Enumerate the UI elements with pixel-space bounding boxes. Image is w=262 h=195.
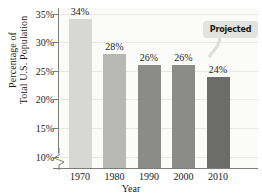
- bar-2010: [207, 77, 230, 168]
- callout-tail-icon: [206, 36, 222, 58]
- bar-value-label-1980: 28%: [95, 41, 135, 52]
- y-axis-tick-mark: [53, 14, 59, 15]
- bar-value-label-2000: 26%: [164, 52, 204, 63]
- y-axis-tick-mark: [53, 71, 59, 72]
- bar-2000: [172, 65, 195, 168]
- y-axis-tick-label: 35%: [36, 8, 54, 19]
- y-axis-tick-label: 20%: [36, 94, 54, 105]
- axis-break-icon: [52, 148, 66, 170]
- bar-value-label-1970: 34%: [60, 6, 100, 17]
- x-axis-line: [53, 168, 258, 169]
- bar-value-label-2010: 24%: [198, 64, 238, 75]
- y-axis-tick-mark: [53, 42, 59, 43]
- projected-callout-label: Projected: [210, 25, 251, 34]
- y-axis-tick-label: 25%: [36, 65, 54, 76]
- y-axis-line: [58, 8, 59, 153]
- y-axis-title-line-1: Percentage of: [7, 32, 18, 88]
- bar-1990: [138, 65, 161, 168]
- y-axis-tick-labels: 10%15%20%25%30%35%: [22, 0, 54, 195]
- y-axis-tick-mark: [53, 157, 59, 158]
- y-axis-tick-mark: [53, 99, 59, 100]
- y-axis-tick-label: 15%: [36, 123, 54, 134]
- x-axis-title: Year: [0, 183, 262, 194]
- bar-1970: [69, 19, 92, 168]
- bar-chart-figure: Percentage of Total U.S. Population 10%1…: [0, 0, 262, 195]
- y-axis-tick-label: 30%: [36, 37, 54, 48]
- bar-1980: [103, 54, 126, 168]
- y-axis-tick-mark: [53, 128, 59, 129]
- projected-callout: Projected: [203, 21, 258, 38]
- x-axis-tick-label-2010: 2010: [198, 171, 238, 182]
